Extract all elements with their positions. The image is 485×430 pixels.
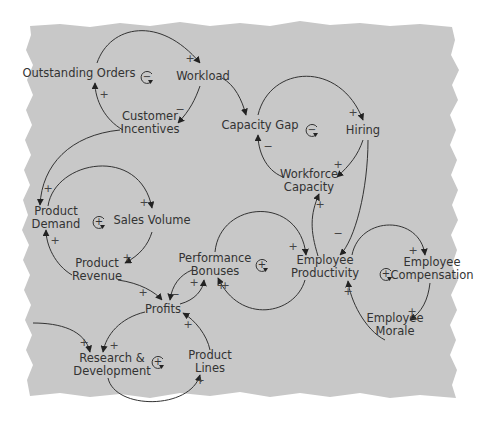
link-polarity-sign: + (288, 241, 297, 252)
node-product-lines: ProductLines (188, 349, 232, 375)
loop-polarity-icon: + (91, 214, 107, 230)
loop-sign: + (91, 214, 107, 230)
loop-polarity-icon: − (139, 69, 155, 85)
node-employee-productivity: EmployeeProductivity (291, 254, 359, 280)
link-polarity-sign: + (333, 159, 342, 170)
node-employee-compensation: EmployeeCompensation (391, 256, 474, 282)
link-polarity-sign: + (216, 280, 225, 291)
link-polarity-sign: − (263, 141, 272, 152)
link-polarity-sign: + (185, 53, 194, 64)
link-polarity-sign: + (195, 375, 204, 386)
link-polarity-sign: − (175, 104, 184, 115)
node-profits: Profits (145, 303, 181, 316)
link-polarity-sign: + (348, 107, 357, 118)
node-product-revenue: ProductRevenue (72, 257, 122, 283)
link-polarity-sign: + (43, 183, 52, 194)
link-polarity-sign: + (122, 252, 131, 263)
link-polarity-sign: − (170, 289, 179, 300)
node-sales-volume: Sales Volume (113, 214, 190, 227)
link-polarity-sign: + (407, 306, 416, 317)
link-polarity-sign: + (189, 277, 198, 288)
link-polarity-sign: + (50, 235, 59, 246)
loop-sign: + (254, 257, 270, 273)
link-polarity-sign: + (139, 197, 148, 208)
loop-sign: − (304, 122, 320, 138)
node-research-development: Research &Development (73, 352, 150, 378)
node-customer-incentives: CustomerIncentives (121, 110, 180, 136)
node-hiring: Hiring (346, 124, 380, 137)
link-polarity-sign: + (109, 340, 118, 351)
node-product-demand: ProductDemand (32, 205, 81, 231)
node-performance-bonuses: PerformanceBonuses (179, 252, 252, 278)
loop-sign: − (139, 69, 155, 85)
loop-sign: + (150, 354, 166, 370)
loop-polarity-icon: − (304, 122, 320, 138)
loop-polarity-icon: + (254, 257, 270, 273)
node-outstanding-orders: Outstanding Orders (22, 67, 135, 80)
link-polarity-sign: + (99, 89, 108, 100)
node-workload: Workload (176, 70, 230, 83)
node-workforce-capacity: WorkforceCapacity (280, 168, 338, 194)
link-polarity-sign: + (408, 245, 417, 256)
link-polarity-sign: + (138, 287, 147, 298)
link-polarity-sign: + (343, 286, 352, 297)
loop-sign: + (378, 266, 394, 282)
link-polarity-sign: + (79, 337, 88, 348)
link-polarity-sign: − (333, 228, 342, 239)
link-polarity-sign: + (183, 319, 192, 330)
loop-polarity-icon: + (378, 266, 394, 282)
link-polarity-sign: + (315, 199, 324, 210)
node-capacity-gap: Capacity Gap (221, 119, 298, 132)
loop-polarity-icon: + (150, 354, 166, 370)
